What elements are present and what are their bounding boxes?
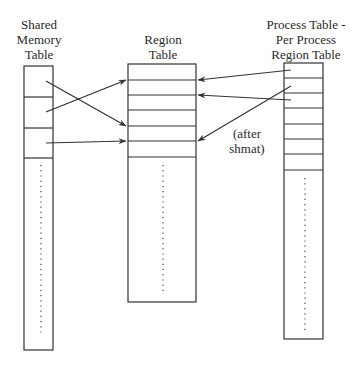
pointer-arrow [46, 80, 126, 112]
table-box [284, 63, 323, 339]
diagram-canvas [0, 0, 362, 367]
table-box [128, 64, 196, 302]
pointer-arrow [198, 95, 291, 100]
table-box [24, 66, 53, 350]
pointer-arrow [198, 70, 291, 80]
process-table [284, 63, 323, 339]
pointer-arrow [46, 81, 126, 126]
shared-memory-table [24, 66, 53, 350]
pointer-arrow [46, 141, 126, 143]
region-table [128, 64, 196, 302]
tables-layer [24, 63, 323, 350]
pointer-arrow [198, 86, 291, 141]
arrows-layer [46, 70, 291, 143]
